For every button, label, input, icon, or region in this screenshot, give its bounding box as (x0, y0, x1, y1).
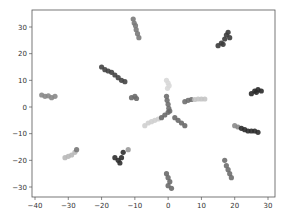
y-tick-label: −20 (12, 157, 27, 165)
y-tick-label: 20 (18, 50, 27, 58)
y-tick-label: −10 (12, 130, 27, 138)
data-point (254, 90, 259, 95)
data-point (227, 35, 232, 40)
data-point (165, 86, 170, 91)
data-point (182, 123, 187, 128)
series-cluster-13b (74, 147, 79, 152)
x-tick-label: −10 (127, 202, 142, 210)
x-tick-label: 10 (197, 202, 206, 210)
x-tick-label: −40 (28, 202, 43, 210)
data-point (255, 130, 260, 135)
data-point (259, 88, 264, 93)
data-point (126, 147, 131, 152)
data-point (74, 147, 79, 152)
data-point (169, 186, 174, 191)
data-point (119, 155, 124, 160)
x-tick-label: 20 (230, 202, 239, 210)
x-tick-label: 0 (166, 202, 170, 210)
data-point (121, 150, 126, 155)
y-tick-label: 30 (18, 24, 27, 32)
data-point (222, 158, 227, 163)
scatter-chart: −40−30−20−100102030 −30−20−100102030 (0, 0, 290, 218)
chart-background (0, 0, 290, 218)
data-point (52, 94, 57, 99)
y-tick-label: 0 (23, 104, 27, 112)
y-tick-label: 10 (18, 77, 27, 85)
data-point (202, 96, 207, 101)
data-point (117, 160, 122, 165)
data-point (136, 35, 141, 40)
data-point (122, 79, 127, 84)
data-point (226, 30, 231, 35)
data-point (229, 175, 234, 180)
x-tick-label: 30 (264, 202, 273, 210)
series-cluster-14b (126, 147, 131, 152)
x-tick-label: −30 (61, 202, 76, 210)
y-tick-label: −30 (12, 184, 27, 192)
data-point (221, 42, 226, 47)
data-point (134, 96, 139, 101)
x-tick-label: −20 (94, 202, 109, 210)
data-point (166, 110, 171, 115)
